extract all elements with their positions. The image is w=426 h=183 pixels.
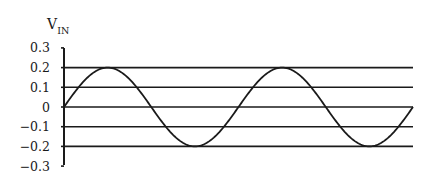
y-tick-label: −0.2 xyxy=(20,139,50,154)
y-axis-label: VIN xyxy=(46,16,69,36)
sine-wave-chart: 0.30.20.10−0.1−0.2−0.3 VIN xyxy=(0,0,426,183)
y-axis-label-subscript: IN xyxy=(57,25,69,36)
y-tick-label: 0.2 xyxy=(30,60,50,75)
y-tick-label: 0.1 xyxy=(30,80,50,95)
y-axis-tick-labels: 0.30.20.10−0.1−0.2−0.3 xyxy=(20,40,50,173)
y-tick-label: −0.3 xyxy=(20,159,50,174)
y-tick-label: 0.3 xyxy=(30,40,50,55)
y-tick-label: −0.1 xyxy=(20,119,50,134)
y-tick-label: 0 xyxy=(42,100,50,115)
